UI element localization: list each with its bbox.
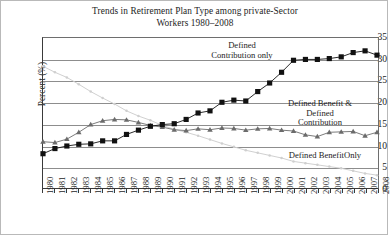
- x-tick-1996: [234, 189, 235, 193]
- x-tick-1985: [102, 189, 103, 193]
- x-tick-1980: [42, 189, 43, 193]
- data-point: [219, 100, 224, 105]
- data-point: [339, 54, 344, 59]
- data-point: [52, 146, 57, 151]
- x-tick-2007: [366, 189, 367, 193]
- data-point: [172, 121, 177, 126]
- data-point: [76, 142, 81, 147]
- data-point: [327, 56, 332, 61]
- x-tick-1997: [246, 189, 247, 193]
- data-point: [219, 125, 224, 130]
- data-point: [350, 129, 355, 134]
- data-point: [76, 130, 81, 135]
- data-point: [40, 139, 45, 144]
- data-point: [148, 124, 153, 129]
- data-point: [137, 115, 140, 118]
- x-tick-1991: [174, 189, 175, 193]
- data-point: [268, 154, 271, 157]
- x-tick-1981: [54, 189, 55, 193]
- data-point: [89, 90, 92, 93]
- data-point: [112, 117, 117, 122]
- data-point: [64, 143, 69, 148]
- data-point: [267, 80, 272, 85]
- x-tick-1993: [198, 189, 199, 193]
- data-point: [100, 138, 105, 143]
- data-point: [362, 48, 367, 53]
- x-tick-1988: [138, 189, 139, 193]
- annotation-defined-contribution-only: DefinedContribution only: [187, 41, 297, 60]
- data-point: [243, 98, 248, 103]
- data-point: [195, 126, 200, 131]
- annotation-dbdc-line-3: Contribution: [257, 118, 383, 128]
- data-point: [78, 83, 81, 86]
- data-point: [160, 122, 165, 127]
- data-point: [66, 76, 69, 79]
- data-point: [207, 108, 212, 113]
- data-point: [315, 57, 320, 62]
- x-tick-label-2008: 2008: [382, 185, 391, 194]
- x-tick-1986: [114, 189, 115, 193]
- chart-title: Trends in Retirement Plan Type among pri…: [1, 6, 389, 29]
- x-tick-2006: [354, 189, 355, 193]
- x-tick-1999: [270, 189, 271, 193]
- data-point: [256, 152, 259, 155]
- x-tick-1995: [222, 189, 223, 193]
- annotation-db-line-1: Defined BenefitOnly: [273, 151, 377, 161]
- data-point: [112, 138, 117, 143]
- x-tick-2002: [306, 189, 307, 193]
- data-point: [221, 142, 224, 145]
- data-point: [88, 141, 93, 146]
- data-point: [184, 117, 189, 122]
- data-point: [255, 89, 260, 94]
- x-tick-2005: [342, 189, 343, 193]
- x-tick-1992: [186, 189, 187, 193]
- x-tick-1983: [78, 189, 79, 193]
- data-point: [304, 162, 307, 165]
- data-point: [245, 149, 248, 152]
- data-point: [231, 98, 236, 103]
- data-point: [279, 70, 284, 75]
- data-point: [374, 130, 379, 135]
- data-point: [209, 138, 212, 141]
- annotation-dc-line-2: Contribution only: [187, 51, 297, 61]
- data-point: [374, 53, 379, 58]
- x-tick-2000: [282, 189, 283, 193]
- data-point: [195, 110, 200, 115]
- data-point: [149, 119, 152, 122]
- chart-title-line-2: Workers 1980–2008: [1, 18, 389, 30]
- data-point: [124, 132, 129, 137]
- x-tick-1987: [126, 189, 127, 193]
- x-tick-2004: [330, 189, 331, 193]
- data-point: [40, 151, 45, 156]
- x-tick-1982: [66, 189, 67, 193]
- x-tick-1989: [150, 189, 151, 193]
- data-point: [42, 65, 45, 68]
- data-point: [136, 128, 141, 133]
- data-point: [351, 50, 356, 55]
- data-point: [364, 172, 367, 175]
- x-tick-2001: [294, 189, 295, 193]
- annotation-defined-benefit-only: Defined BenefitOnly: [273, 151, 377, 161]
- data-point: [113, 103, 116, 106]
- x-tick-2003: [318, 189, 319, 193]
- x-tick-2008: [378, 189, 379, 193]
- annotation-defined-benefit-and-contribution: Defined Benefit &DefinedContribution: [257, 99, 383, 128]
- x-tick-1984: [90, 189, 91, 193]
- data-point: [316, 164, 319, 167]
- data-point: [303, 57, 308, 62]
- data-point: [54, 71, 57, 74]
- data-point: [197, 134, 200, 137]
- data-point: [352, 170, 355, 173]
- x-tick-1998: [258, 189, 259, 193]
- data-point: [64, 136, 69, 141]
- data-point: [233, 146, 236, 149]
- data-point: [340, 167, 343, 170]
- x-tick-1994: [210, 189, 211, 193]
- data-point: [328, 165, 331, 168]
- data-point: [101, 97, 104, 100]
- chart-title-line-1: Trends in Retirement Plan Type among pri…: [1, 6, 389, 18]
- x-tick-1990: [162, 189, 163, 193]
- data-point: [125, 110, 128, 113]
